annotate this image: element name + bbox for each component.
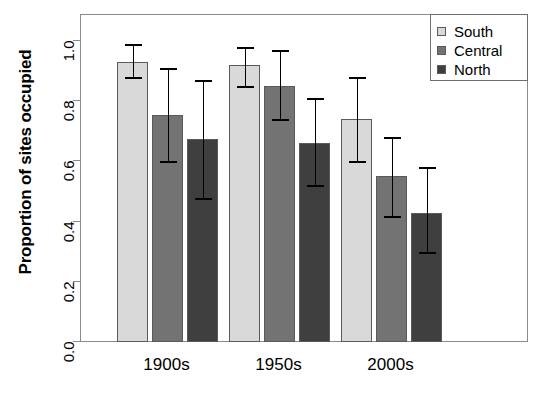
y-tick-label: 0.4 — [60, 221, 77, 261]
y-tick-label: 0.6 — [60, 161, 77, 201]
y-tick-label: 0.8 — [60, 101, 77, 141]
error-bar-north-2000s — [427, 167, 428, 251]
error-cap-upper — [419, 167, 436, 169]
legend-swatch-south — [437, 27, 446, 36]
error-cap-lower — [349, 161, 366, 163]
legend-label-central: Central — [454, 43, 502, 58]
y-axis-title: Proportion of sites occupied — [16, 2, 36, 322]
error-cap-lower — [419, 252, 436, 254]
error-cap-upper — [349, 77, 366, 79]
error-cap-upper — [272, 50, 289, 52]
error-bar-central-1950s — [280, 50, 281, 119]
error-cap-lower — [272, 119, 289, 121]
plot-area: South Central North — [80, 14, 528, 342]
legend-item-north: North — [437, 60, 527, 79]
error-bar-south-1950s — [245, 47, 246, 86]
error-cap-upper — [307, 98, 324, 100]
error-cap-lower — [160, 161, 177, 163]
error-bar-south-2000s — [357, 77, 358, 161]
legend-label-south: South — [454, 24, 493, 39]
bar-south-1950s — [229, 65, 260, 342]
error-cap-lower — [307, 185, 324, 187]
error-cap-lower — [125, 77, 142, 79]
x-tick-label-1950s: 1950s — [234, 355, 324, 375]
error-cap-upper — [237, 47, 254, 49]
bar-chart-figure: Proportion of sites occupied 0.00.20.40.… — [0, 0, 536, 395]
error-bar-central-2000s — [392, 137, 393, 215]
legend-item-central: Central — [437, 41, 527, 60]
legend-label-north: North — [454, 62, 491, 77]
error-bar-north-1950s — [315, 98, 316, 185]
error-cap-lower — [195, 198, 212, 200]
error-cap-upper — [125, 44, 142, 46]
legend: South Central North — [430, 14, 528, 81]
y-tick-label: 0.2 — [60, 281, 77, 321]
x-tick-label-2000s: 2000s — [346, 355, 436, 375]
y-tick-label: 1.0 — [60, 41, 77, 81]
y-tick-label: 0.0 — [60, 342, 77, 382]
error-cap-upper — [160, 68, 177, 70]
bar-central-1950s — [264, 86, 295, 342]
error-bar-central-1900s — [168, 68, 169, 161]
error-bar-south-1900s — [133, 44, 134, 77]
error-cap-upper — [384, 137, 401, 139]
error-cap-lower — [384, 216, 401, 218]
legend-swatch-central — [437, 46, 446, 55]
x-tick-label-1900s: 1900s — [122, 355, 212, 375]
error-cap-lower — [237, 86, 254, 88]
bar-south-1900s — [117, 62, 148, 342]
error-cap-upper — [195, 80, 212, 82]
error-bar-north-1900s — [203, 80, 204, 197]
legend-item-south: South — [437, 22, 527, 41]
legend-swatch-north — [437, 65, 446, 74]
